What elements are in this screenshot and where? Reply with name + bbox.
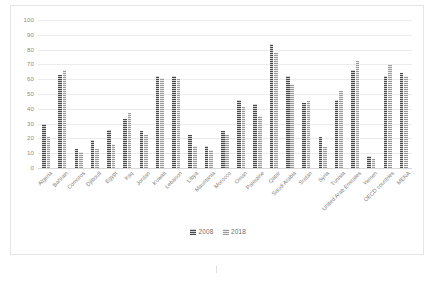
- y-axis-tick-label: 40: [27, 106, 34, 112]
- legend-label: 2008: [198, 228, 213, 235]
- bar-group: [379, 20, 395, 168]
- x-axis-tick-label: MENA: [395, 170, 411, 186]
- legend-item-2008[interactable]: 2008: [190, 228, 214, 235]
- bar[interactable]: [258, 116, 262, 168]
- bar[interactable]: [339, 91, 343, 168]
- bar[interactable]: [242, 107, 246, 168]
- x-axis-tick-label: Egypt: [104, 170, 118, 184]
- bar-group: [266, 20, 282, 168]
- bar[interactable]: [302, 103, 306, 168]
- bar-group: [233, 20, 249, 168]
- bar-group: [396, 20, 412, 168]
- bar[interactable]: [63, 70, 67, 168]
- bar[interactable]: [58, 75, 62, 168]
- bar[interactable]: [156, 76, 160, 168]
- bar-group: [168, 20, 184, 168]
- legend-swatch-icon: [190, 229, 196, 235]
- page-caret: [216, 266, 217, 273]
- bar-group: [249, 20, 265, 168]
- x-axis-tick-label: Djibouti: [85, 170, 102, 187]
- gridline: [38, 168, 412, 169]
- bar-group: [282, 20, 298, 168]
- bar-group: [347, 20, 363, 168]
- bar[interactable]: [221, 131, 225, 168]
- bar[interactable]: [270, 44, 274, 168]
- bar[interactable]: [286, 76, 290, 168]
- bar[interactable]: [172, 76, 176, 168]
- bar-group: [71, 20, 87, 168]
- bar-group: [119, 20, 135, 168]
- bar[interactable]: [188, 135, 192, 168]
- y-axis-tick-label: 60: [27, 76, 34, 82]
- bar[interactable]: [274, 53, 278, 168]
- bar[interactable]: [400, 73, 404, 168]
- bar[interactable]: [351, 70, 355, 168]
- x-axis-labels: AlgeriaBahrainComorosDjiboutiEgyptIraqJo…: [38, 170, 412, 228]
- bar[interactable]: [140, 131, 144, 168]
- bar[interactable]: [253, 104, 257, 168]
- bar[interactable]: [47, 137, 51, 168]
- bar-group: [201, 20, 217, 168]
- x-axis-tick-label: Oman: [233, 170, 248, 185]
- bar-group: [298, 20, 314, 168]
- legend-swatch-icon: [223, 229, 229, 235]
- y-axis-tick-label: 90: [27, 32, 34, 38]
- bar-group: [314, 20, 330, 168]
- y-axis-tick-label: 0: [30, 165, 34, 171]
- x-axis-tick-label: Jordan: [135, 170, 151, 186]
- bar[interactable]: [367, 156, 371, 168]
- bar-group: [363, 20, 379, 168]
- bar[interactable]: [290, 84, 294, 168]
- bar[interactable]: [323, 147, 327, 168]
- y-axis-tick-label: 70: [27, 61, 34, 67]
- bar[interactable]: [372, 159, 376, 168]
- bar-group: [38, 20, 54, 168]
- x-axis-tick-label: Libya: [186, 170, 200, 184]
- bar[interactable]: [42, 124, 46, 168]
- bar-group: [331, 20, 347, 168]
- bars-layer: [38, 20, 412, 168]
- bar-group: [87, 20, 103, 168]
- legend-item-2018[interactable]: 2018: [223, 228, 247, 235]
- bar-group: [136, 20, 152, 168]
- chart-container: 0102030405060708090100 AlgeriaBahrainCom…: [10, 5, 424, 255]
- bar[interactable]: [307, 101, 311, 168]
- bar[interactable]: [144, 135, 148, 168]
- bar[interactable]: [335, 100, 339, 168]
- chart-legend: 2008 2018: [11, 228, 425, 235]
- bar[interactable]: [237, 100, 241, 168]
- x-axis-tick-label: Qatar: [267, 170, 281, 184]
- bar[interactable]: [384, 76, 388, 168]
- bar[interactable]: [123, 119, 127, 168]
- y-axis-tick-label: 50: [27, 91, 34, 97]
- bar[interactable]: [128, 113, 132, 168]
- y-axis-tick-label: 100: [23, 17, 34, 23]
- bar-group: [152, 20, 168, 168]
- y-axis-tick-label: 20: [27, 135, 34, 141]
- bar[interactable]: [160, 78, 164, 168]
- bar[interactable]: [388, 64, 392, 168]
- bar[interactable]: [177, 79, 181, 168]
- legend-label: 2018: [231, 228, 246, 235]
- bar[interactable]: [319, 137, 323, 168]
- y-axis-tick-label: 80: [27, 47, 34, 53]
- bar[interactable]: [356, 61, 360, 168]
- bar-group: [54, 20, 70, 168]
- bar[interactable]: [95, 149, 99, 168]
- bar[interactable]: [91, 140, 95, 168]
- bar-group: [184, 20, 200, 168]
- bar[interactable]: [75, 149, 79, 168]
- bar[interactable]: [225, 135, 229, 168]
- bar-group: [103, 20, 119, 168]
- bar[interactable]: [107, 130, 111, 168]
- bar[interactable]: [209, 150, 213, 168]
- y-axis-tick-label: 10: [27, 150, 34, 156]
- bar[interactable]: [205, 146, 209, 168]
- bar[interactable]: [193, 146, 197, 168]
- x-axis-tick-label: Syria: [317, 170, 330, 183]
- bar[interactable]: [404, 76, 408, 168]
- bar[interactable]: [112, 144, 116, 168]
- x-axis-tick-label: Iraq: [124, 170, 135, 181]
- bar[interactable]: [79, 152, 83, 168]
- y-axis-tick-label: 30: [27, 121, 34, 127]
